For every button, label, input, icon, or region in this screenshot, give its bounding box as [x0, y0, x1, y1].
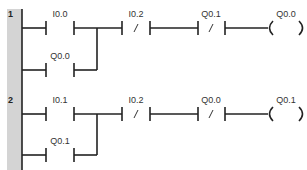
coil-label: Q0.1: [276, 95, 296, 105]
output-coil-icon: [266, 106, 306, 122]
nc-contact-icon: [120, 106, 152, 122]
rung-number: 1: [8, 9, 13, 19]
contact-label: Q0.1: [50, 136, 70, 146]
contact-label: I0.2: [128, 95, 143, 105]
no-contact-icon: [44, 106, 76, 122]
rung-number: 2: [8, 95, 13, 105]
contact-label: I0.0: [52, 9, 67, 19]
contact-label: Q0.0: [201, 95, 221, 105]
nc-contact-icon: [196, 106, 227, 122]
contact-label: I0.1: [52, 95, 67, 105]
contact-label: Q0.1: [201, 9, 221, 19]
no-contact-icon: [44, 147, 76, 163]
ladder-diagram: 1 2 I0.0 Q0.0 I0.2 Q0.1 Q0.0 I0.1 Q0.1 I…: [0, 0, 307, 170]
no-contact-icon: [44, 20, 76, 36]
nc-contact-icon: [120, 20, 152, 36]
coil-label: Q0.0: [276, 9, 296, 19]
output-coil-icon: [266, 20, 306, 36]
contact-label: I0.2: [128, 9, 143, 19]
contact-label: Q0.0: [50, 51, 70, 61]
no-contact-icon: [44, 62, 76, 78]
nc-contact-icon: [196, 20, 227, 36]
